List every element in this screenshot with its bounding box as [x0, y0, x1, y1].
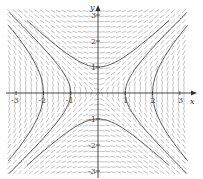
- x-tick-label: 1: [123, 96, 128, 105]
- x-tick-label: -1: [66, 96, 74, 105]
- x-axis: [6, 91, 197, 96]
- y-tick-label: 2: [91, 37, 96, 46]
- x-axis-label: x: [190, 97, 195, 106]
- x-tick-label: -2: [38, 96, 46, 105]
- y-tick-label: -2: [88, 141, 96, 150]
- x-tick-label: 3: [178, 96, 183, 105]
- y-tick-label: -3: [88, 167, 96, 176]
- x-tick-label: 2: [151, 96, 156, 105]
- y-axis: [96, 5, 101, 178]
- y-tick-label: -1: [88, 115, 96, 124]
- y-axis-label: y: [89, 3, 95, 12]
- slope-field-segments: [7, 9, 185, 174]
- y-tick-label: 1: [91, 63, 96, 72]
- slope-field-chart: -3-2-1123-3-2-1123 x y: [0, 0, 203, 179]
- x-tick-label: -3: [11, 96, 19, 105]
- y-tick-label: 3: [91, 11, 96, 20]
